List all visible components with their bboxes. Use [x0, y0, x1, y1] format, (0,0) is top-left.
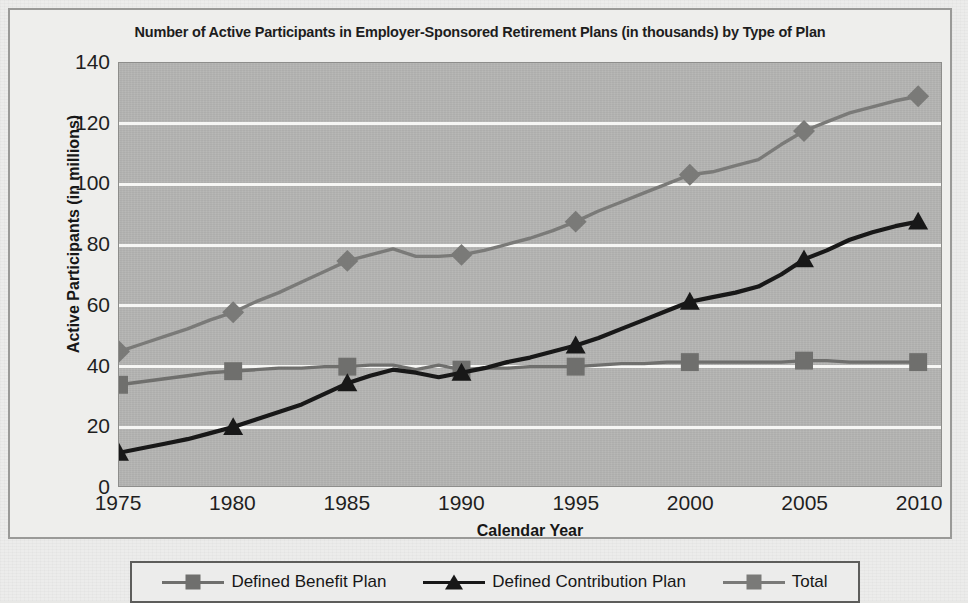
legend-label: Defined Benefit Plan: [231, 572, 386, 592]
data-point-marker: [793, 120, 815, 142]
x-tick-label: 2010: [874, 491, 964, 515]
data-point-marker: [118, 341, 130, 363]
data-point-marker: [451, 244, 473, 266]
chart-legend: Defined Benefit PlanDefined Contribution…: [130, 561, 860, 603]
data-point-marker: [336, 250, 358, 272]
y-tick-label: 60: [18, 293, 110, 317]
x-tick-label: 1980: [187, 491, 277, 515]
data-point-marker: [907, 85, 929, 107]
legend-item: Total: [723, 572, 828, 592]
legend-swatch: [423, 573, 485, 591]
legend-swatch: [162, 573, 224, 591]
data-point-marker: [679, 164, 701, 186]
data-point-marker: [681, 353, 699, 371]
data-point-marker: [909, 353, 927, 371]
y-axis-ticks: 020406080100120140: [10, 62, 110, 487]
data-point-marker: [338, 358, 356, 376]
y-tick-label: 20: [18, 414, 110, 438]
x-tick-label: 1995: [531, 491, 621, 515]
series-lines: [119, 63, 941, 486]
legend-marker-triangle-icon: [445, 575, 463, 590]
legend-swatch: [723, 573, 785, 591]
chart-title: Number of Active Participants in Employe…: [10, 24, 950, 40]
plot-area: [118, 62, 942, 487]
x-tick-label: 1985: [302, 491, 392, 515]
x-tick-label: 1990: [416, 491, 506, 515]
data-point-marker: [222, 301, 244, 323]
x-axis-ticks: 19751980198519901995200020052010: [118, 491, 942, 521]
series-line: [119, 222, 918, 453]
y-tick-label: 80: [18, 232, 110, 256]
x-tick-label: 2005: [760, 491, 850, 515]
y-axis-label: Active Participants (in millions): [65, 69, 83, 399]
legend-marker-diamond-icon: [746, 575, 761, 590]
legend-item: Defined Contribution Plan: [423, 572, 686, 592]
data-point-marker: [224, 362, 242, 380]
y-tick-label: 120: [18, 111, 110, 135]
legend-item: Defined Benefit Plan: [162, 572, 386, 592]
data-point-marker: [565, 211, 587, 233]
chart-figure: Number of Active Participants in Employe…: [8, 8, 952, 539]
legend-label: Defined Contribution Plan: [492, 572, 686, 592]
data-point-marker: [118, 376, 128, 394]
legend-marker-square-icon: [186, 575, 201, 590]
x-tick-label: 2000: [645, 491, 735, 515]
x-axis-label: Calendar Year: [118, 522, 942, 540]
data-point-marker: [795, 352, 813, 370]
data-point-marker: [908, 212, 928, 230]
y-tick-label: 40: [18, 354, 110, 378]
legend-label: Total: [792, 572, 828, 592]
data-point-marker: [567, 358, 585, 376]
y-tick-label: 140: [18, 50, 110, 74]
y-tick-label: 100: [18, 171, 110, 195]
x-tick-label: 1975: [73, 491, 163, 515]
